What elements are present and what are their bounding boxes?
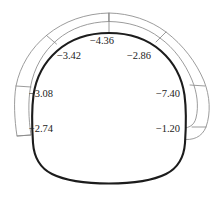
- displacement-label-right-haunch: −7.40: [156, 89, 180, 100]
- tunnel-displacement-figure: −4.36 −3.42 −2.86 −3.08 −7.40 −2.74 −1.2…: [0, 0, 219, 200]
- displacement-label-crown: −4.36: [90, 36, 114, 47]
- displacement-label-left-haunch: −3.08: [29, 89, 53, 100]
- displacement-label-right-sidewall: −1.20: [156, 124, 180, 135]
- displacement-label-right-shoulder: −2.86: [127, 51, 151, 62]
- displacement-label-left-shoulder: −3.42: [57, 51, 81, 62]
- displacement-label-left-sidewall: −2.74: [29, 124, 53, 135]
- inner-excavation-boundary: [32, 33, 186, 184]
- tunnel-cross-section-drawing: [0, 0, 219, 200]
